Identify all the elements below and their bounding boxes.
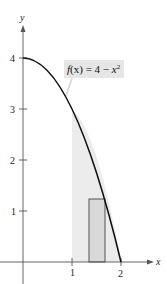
y-tick-label-1: 1 xyxy=(11,206,16,217)
label-leader-line xyxy=(66,78,72,96)
y-tick-label-3: 3 xyxy=(10,104,15,115)
x-axis-label: x xyxy=(155,256,161,267)
function-label: f(x) = 4 − x2 xyxy=(67,63,121,76)
y-tick-label-4: 4 xyxy=(10,53,15,64)
y-axis-arrow-icon xyxy=(21,25,26,32)
approximating-rectangle xyxy=(89,199,105,262)
y-axis-label: y xyxy=(19,12,25,23)
x-axis-arrow-icon xyxy=(147,260,154,265)
function-label-body: (x) = 4 − xyxy=(70,63,112,76)
chart: x y 1 2 4 3 2 1 f(x) = 4 − x2 xyxy=(0,0,167,284)
function-label-exponent: 2 xyxy=(117,63,121,71)
x-tick-label-2: 2 xyxy=(118,268,123,279)
x-tick-label-1: 1 xyxy=(70,267,75,278)
y-tick-label-2: 2 xyxy=(10,155,15,166)
